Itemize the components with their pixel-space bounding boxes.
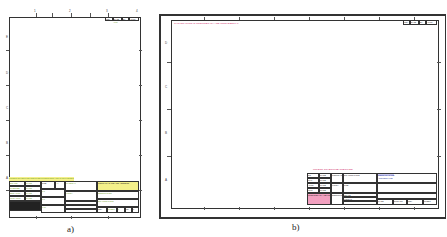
company-header: COMPANY NAME ADDRESS LINE [377,173,437,183]
zone-label: 2 [69,10,71,13]
zone-label: 4 [136,10,138,13]
tb-bottom: SHEET [423,199,437,205]
panel-b-sheet: THIS DRAWING IS PROPRIETARY AND CONFIDEN… [159,14,445,218]
tb-bottom: DWG NO [393,199,407,205]
tb-field-title: DRAWING TITLE [97,199,139,207]
title-block: UNLESS OTHERWISE SPECIFIED DIMENSIONS AR… [9,177,139,216]
zone-label: D [6,72,8,75]
zone-tick [414,207,415,210]
zone-tick [139,50,142,51]
zone-tick [6,120,9,121]
tb-bottom: 1 [132,207,139,213]
pink-header: UNLESS OTHERWISE SPECIFIED [313,168,353,171]
tb-field-finish: FINISH [65,191,97,201]
tb-mid-value: 1/1 [41,197,65,205]
zone-tick [437,109,441,110]
tb-field-blank [377,183,437,193]
zone-tick [108,216,109,219]
tb-field-material: MATERIAL [65,181,97,191]
zone-label: 1 [34,10,36,13]
zone-label: A [165,179,167,182]
zone-tick [36,216,37,219]
panel-a-sheet: 1 2 3 4 E D C B A REV DATE BY APPR A001 … [6,10,142,220]
zone-label: D [165,42,167,45]
tb-mid-value: 1:1 [41,189,65,197]
zone-tick [6,155,9,156]
tb-right-label: SIZE [343,183,377,193]
zone-tick [274,17,275,20]
zone-tick [167,62,171,63]
zone-tick [437,62,441,63]
zone-tick [204,17,205,20]
rev-col: REV [403,20,410,25]
zone-tick [139,155,142,156]
tb-mid-label: FINISH [331,183,343,193]
tb-mid-value: A4 [55,181,65,189]
tb-mid-label: SIZE [41,181,55,189]
tb-field-blank [343,201,377,205]
zone-tick [204,207,205,210]
revision-block: REV DATE BY APPR A001 [105,17,139,27]
panel-b-caption: b) [292,222,300,232]
zone-tick [167,109,171,110]
rev-col: APPR [426,20,437,25]
zone-tick [344,17,345,20]
rev-col: APPR [129,17,139,21]
zone-label: 3 [106,10,108,13]
tb-bottom: OF [125,207,132,213]
company-address: ADDRESS LINE [378,177,393,179]
zone-tick [90,13,91,17]
zone-tick [36,13,37,17]
panel-a-caption: a) [67,224,74,234]
tb-bottom: REV [97,207,107,213]
zone-label: C [6,107,8,110]
zone-tick [139,120,142,121]
tb-bottom: SHEET [107,207,117,213]
zone-label: C [165,86,167,89]
zone-label: B [6,142,8,145]
rev-value: A001 [113,21,122,26]
tb-mid-label: CONTRACT [331,173,343,183]
tb-mid-label: DESCRIPTION [331,193,343,205]
zone-tick [239,17,240,20]
zone-tick [52,13,53,17]
tb-right-label: DRAWING TITLE [343,173,377,183]
top-note: THIS DRAWING IS PROPRIETARY AND CONFIDEN… [174,22,239,25]
zone-tick [6,85,9,86]
zone-tick [274,207,275,210]
zone-label: B [165,132,167,135]
tb-bottom: REV [407,199,423,205]
zone-label: A [6,177,8,180]
zone-tick [437,156,441,157]
zone-tick [6,50,9,51]
pink-note: PROPRIETARY AND CONFIDENTIAL NOTICE [307,193,331,205]
rev-col: BY [419,20,426,25]
rev-col: DATE [410,20,419,25]
title-block: UNLESS OTHERWISE SPECIFIED DR NAME CHK N… [307,168,437,207]
zone-tick [379,207,380,210]
rev-col: BY [122,17,129,21]
zone-tick [139,85,142,86]
tb-field-blank [65,209,97,213]
company-header: COMPANY NAME AND ADDRESS [97,181,139,191]
zone-tick [379,17,380,20]
zone-tick [239,207,240,210]
zone-tick [344,207,345,210]
dark-notice [9,201,41,211]
zone-tick [309,17,310,20]
zone-tick [71,13,72,17]
zone-tick [139,190,142,191]
tb-field-description: DESCRIPTION [97,191,139,199]
revision-block: REV DATE BY APPR [403,20,437,26]
zone-tick [309,207,310,210]
tb-bottom: 1 [117,207,125,213]
zone-tick [71,216,72,219]
zone-tick [167,156,171,157]
zone-label: E [6,36,8,39]
rev-col: REV [105,17,113,21]
tb-mid-value: 0.00 [41,205,65,213]
tb-bottom: CAGE [377,199,393,205]
